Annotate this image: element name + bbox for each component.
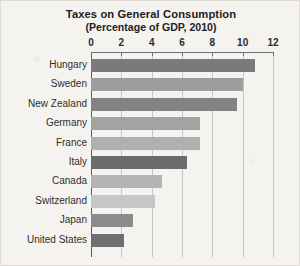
category-label-new-zealand: New Zealand	[0, 97, 87, 111]
tick-mark-8	[212, 52, 213, 56]
bar-japan	[91, 214, 133, 227]
tick-mark-12	[273, 52, 274, 56]
tick-mark-4	[152, 52, 153, 56]
x-tick-label-6: 6	[179, 37, 185, 48]
category-label-canada: Canada	[0, 174, 87, 188]
chart-row: Italy	[1, 156, 300, 169]
chart-row: New Zealand	[1, 98, 300, 111]
x-tick-label-4: 4	[149, 37, 155, 48]
chart-titles: Taxes on General Consumption (Percentage…	[1, 8, 300, 34]
category-label-sweden: Sweden	[0, 77, 87, 91]
x-axis-tick-labels: 024681012	[1, 37, 300, 50]
bar-france	[91, 137, 200, 150]
tick-mark-2	[121, 52, 122, 56]
bar-germany	[91, 117, 200, 130]
category-label-germany: Germany	[0, 116, 87, 130]
tick-mark-10	[243, 52, 244, 56]
chart-subtitle: (Percentage of GDP, 2010)	[1, 21, 300, 34]
chart-row: France	[1, 137, 300, 150]
chart-row: United States	[1, 234, 300, 247]
chart-title: Taxes on General Consumption	[1, 8, 300, 21]
bar-canada	[91, 175, 162, 188]
category-label-switzerland: Switzerland	[0, 194, 87, 208]
x-tick-label-10: 10	[237, 37, 248, 48]
chart-row: Hungary	[1, 59, 300, 72]
bar-italy	[91, 156, 187, 169]
category-label-italy: Italy	[0, 155, 87, 169]
tick-mark-6	[182, 52, 183, 56]
chart-figure: Taxes on General Consumption (Percentage…	[0, 0, 300, 266]
x-tick-label-12: 12	[267, 37, 278, 48]
x-tick-label-8: 8	[210, 37, 216, 48]
bar-hungary	[91, 59, 255, 72]
x-tick-label-0: 0	[88, 37, 94, 48]
bar-switzerland	[91, 195, 155, 208]
category-label-hungary: Hungary	[0, 58, 87, 72]
category-label-united-states: United States	[0, 233, 87, 247]
chart-row: Japan	[1, 214, 300, 227]
category-label-france: France	[0, 136, 87, 150]
bar-sweden	[91, 78, 243, 91]
chart-row: Canada	[1, 175, 300, 188]
x-tick-label-2: 2	[119, 37, 125, 48]
chart-row: Switzerland	[1, 195, 300, 208]
category-label-japan: Japan	[0, 213, 87, 227]
tick-mark-0	[91, 52, 92, 56]
bar-new-zealand	[91, 98, 237, 111]
chart-row: Germany	[1, 117, 300, 130]
bar-united-states	[91, 234, 124, 247]
chart-row: Sweden	[1, 78, 300, 91]
